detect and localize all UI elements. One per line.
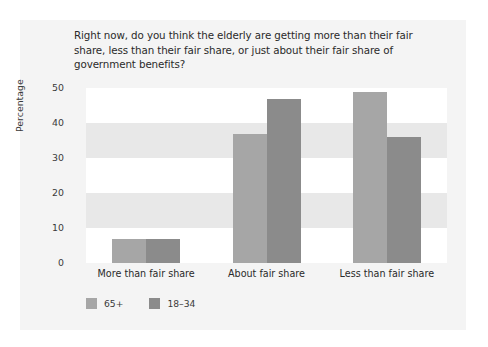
bar-group xyxy=(112,88,180,263)
chart-title: Right now, do you think the elderly are … xyxy=(74,28,444,72)
y-axis-tick-label: 10 xyxy=(20,222,64,233)
y-axis-tick-label: 30 xyxy=(20,152,64,163)
bar xyxy=(233,134,267,264)
y-axis-tick-label: 20 xyxy=(20,187,64,198)
bar xyxy=(112,239,146,264)
x-axis-tick-label: More than fair share xyxy=(86,268,206,279)
x-axis-tick-label: Less than fair share xyxy=(327,268,447,279)
bar xyxy=(267,99,301,264)
legend-label: 18–34 xyxy=(167,298,195,309)
y-axis-tick-label: 0 xyxy=(20,257,64,268)
bar xyxy=(387,137,421,263)
bar-groups xyxy=(86,88,447,263)
chart-figure: Right now, do you think the elderly are … xyxy=(20,20,466,330)
legend-item: 18–34 xyxy=(149,298,195,309)
bar xyxy=(146,239,180,264)
chart-legend: 65+18–34 xyxy=(86,298,221,309)
legend-swatch-icon xyxy=(149,298,160,309)
x-axis-tick-label: About fair share xyxy=(206,268,326,279)
bar xyxy=(353,92,387,264)
y-axis-tick-label: 40 xyxy=(20,117,64,128)
plot-area xyxy=(86,88,447,263)
legend-item: 65+ xyxy=(86,298,123,309)
y-axis-tick-label: 50 xyxy=(20,82,64,93)
legend-label: 65+ xyxy=(104,298,123,309)
bar-group xyxy=(353,88,421,263)
bar-group xyxy=(233,88,301,263)
legend-swatch-icon xyxy=(86,298,97,309)
